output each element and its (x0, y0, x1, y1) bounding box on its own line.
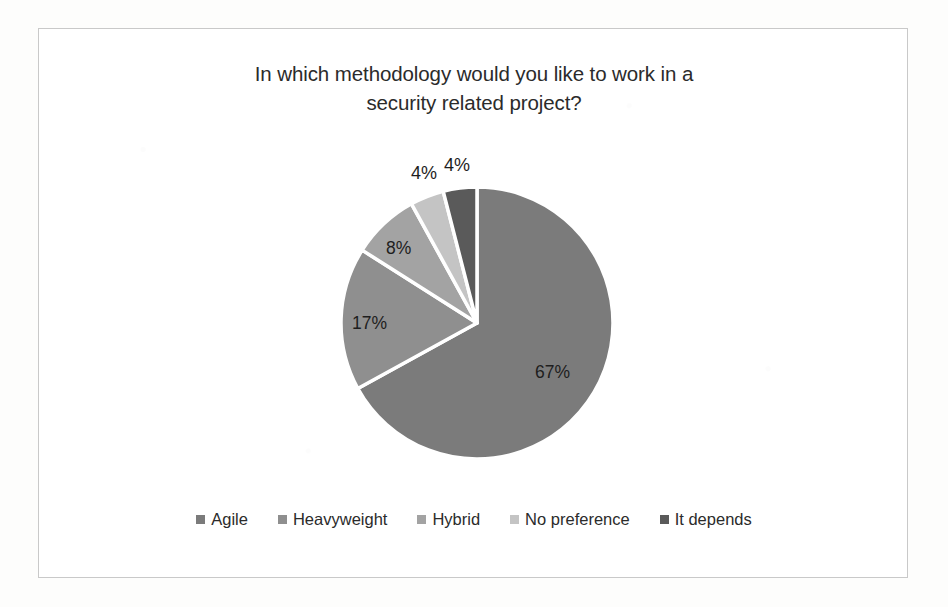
slice-label-no-preference: 4% (411, 163, 437, 184)
legend-label-no-preference: No preference (525, 511, 630, 528)
chart-legend: AgileHeavyweightHybridNo preferenceIt de… (39, 511, 909, 528)
legend-swatch-icon-agile (196, 515, 205, 524)
slice-label-hybrid: 8% (386, 238, 411, 259)
legend-item-agile[interactable]: Agile (196, 511, 248, 528)
legend-item-heavyweight[interactable]: Heavyweight (278, 511, 387, 528)
legend-swatch-icon-it-depends (660, 515, 669, 524)
pie-chart-area: 67% 17% 8% 4% 4% (39, 29, 909, 579)
legend-swatch-icon-heavyweight (278, 515, 287, 524)
slice-label-agile: 67% (535, 362, 570, 383)
chart-frame: In which methodology would you like to w… (38, 28, 908, 578)
legend-item-hybrid[interactable]: Hybrid (417, 511, 480, 528)
legend-label-heavyweight: Heavyweight (293, 511, 387, 528)
slice-label-heavyweight: 17% (352, 313, 387, 334)
slice-label-it-depends: 4% (444, 155, 470, 176)
legend-label-hybrid: Hybrid (432, 511, 480, 528)
legend-swatch-icon-no-preference (510, 515, 519, 524)
legend-item-it-depends[interactable]: It depends (660, 511, 752, 528)
legend-label-it-depends: It depends (675, 511, 752, 528)
legend-label-agile: Agile (211, 511, 248, 528)
legend-item-no-preference[interactable]: No preference (510, 511, 630, 528)
legend-swatch-icon-hybrid (417, 515, 426, 524)
pie-chart-svg (39, 29, 909, 579)
